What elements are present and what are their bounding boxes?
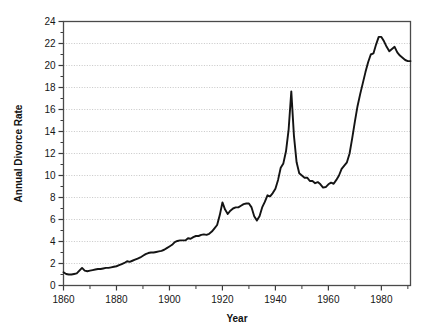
y-tick-label: 10	[44, 170, 56, 181]
y-axis-tick-labels: 024681012141618202224	[44, 16, 56, 291]
x-axis-tick-labels: 1860188019001920194019601980	[52, 294, 393, 305]
y-tick-label: 0	[50, 280, 56, 291]
x-tick-label: 1960	[317, 294, 340, 305]
divorce-rate-chart: 024681012141618202224 186018801900192019…	[0, 0, 427, 335]
gridlines	[64, 44, 411, 264]
x-tick-label: 1860	[52, 294, 75, 305]
y-tick-label: 22	[44, 38, 56, 49]
x-tick-label: 1880	[105, 294, 128, 305]
x-tick-label: 1920	[211, 294, 234, 305]
y-tick-label: 18	[44, 82, 56, 93]
x-axis-title: Year	[226, 313, 247, 324]
y-tick-label: 14	[44, 126, 56, 137]
y-tick-label: 6	[50, 214, 56, 225]
y-tick-label: 16	[44, 104, 56, 115]
x-tick-label: 1980	[370, 294, 393, 305]
chart-canvas: 024681012141618202224 186018801900192019…	[0, 0, 427, 335]
x-axis-major-ticks	[64, 286, 382, 291]
y-tick-label: 12	[44, 148, 56, 159]
y-tick-label: 4	[50, 236, 56, 247]
x-tick-label: 1900	[158, 294, 181, 305]
y-axis-title: Annual Divorce Rate	[13, 104, 24, 202]
y-tick-label: 20	[44, 60, 56, 71]
y-axis-major-ticks	[59, 22, 64, 286]
y-tick-label: 2	[50, 258, 56, 269]
y-tick-label: 8	[50, 192, 56, 203]
y-tick-label: 24	[44, 16, 56, 27]
x-tick-label: 1940	[264, 294, 287, 305]
divorce-rate-line	[64, 37, 411, 275]
